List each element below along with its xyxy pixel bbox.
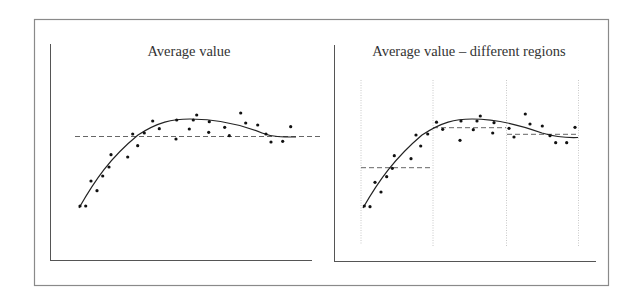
left-chart-title: Average value	[147, 43, 230, 59]
right-chart-title: Average value – different regions	[372, 43, 566, 59]
figure-frame	[35, 20, 609, 286]
figure: Average value	[0, 0, 639, 299]
